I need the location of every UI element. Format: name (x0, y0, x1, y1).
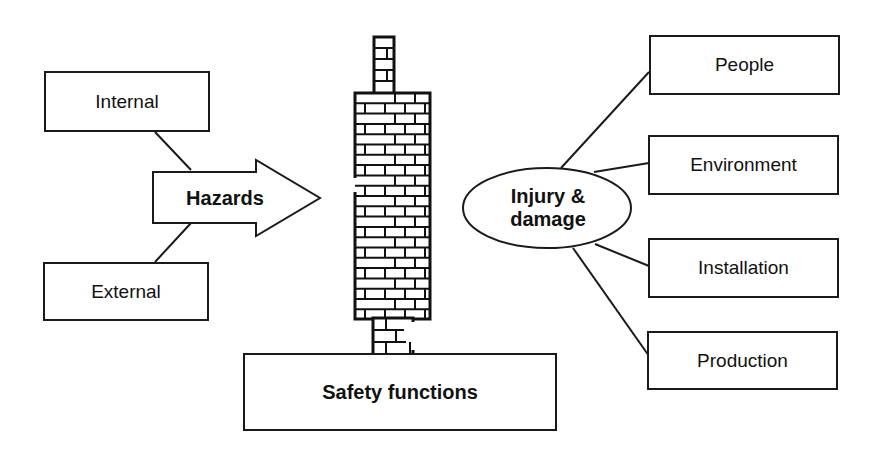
brick-wall-icon (352, 37, 430, 355)
internal-hazard-box: Internal (44, 71, 210, 132)
connector-internal-hazards (155, 132, 191, 170)
external-label: External (91, 281, 161, 303)
environment-label: Environment (690, 154, 797, 176)
people-label: People (715, 54, 774, 76)
target-box-production: Production (647, 331, 838, 390)
injury-damage-label: Injury & damage (478, 182, 618, 234)
target-box-people: People (649, 35, 840, 95)
connector-installation (595, 244, 649, 266)
safety-functions-label: Safety functions (322, 381, 478, 404)
connector-production (573, 248, 649, 356)
target-box-installation: Installation (648, 238, 839, 298)
installation-label: Installation (698, 257, 789, 279)
safety-functions-box: Safety functions (243, 353, 557, 431)
connector-external-hazards (155, 223, 191, 262)
external-hazard-box: External (43, 262, 209, 321)
injury-label-line2: damage (510, 208, 586, 231)
connector-people (561, 72, 649, 168)
production-label: Production (697, 350, 788, 372)
target-box-environment: Environment (648, 135, 839, 195)
connector-environment (594, 163, 649, 172)
internal-label: Internal (95, 91, 158, 113)
hazards-label: Hazards (160, 185, 290, 211)
injury-label-line1: Injury & (511, 185, 585, 208)
